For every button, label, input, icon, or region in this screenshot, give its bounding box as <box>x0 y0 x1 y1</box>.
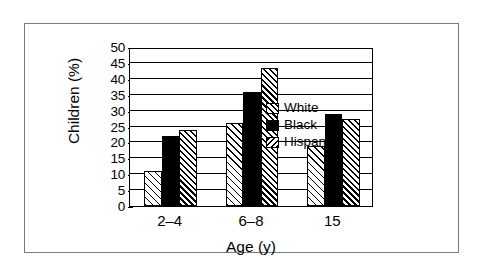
x-axis-title: Age (y) <box>129 238 373 256</box>
bar <box>226 123 244 206</box>
y-tick-mark <box>128 207 133 208</box>
y-tick-label: 45 <box>95 57 125 71</box>
y-tick-label: 35 <box>95 89 125 103</box>
figure-root: Children (%) 05101520253035404550 WhiteB… <box>0 0 484 279</box>
gridline <box>130 62 372 63</box>
y-tick-label: 0 <box>95 200 125 214</box>
y-tick-label: 5 <box>95 184 125 198</box>
y-tick-label: 20 <box>95 136 125 150</box>
bar <box>243 92 261 206</box>
y-tick-label: 40 <box>95 73 125 87</box>
legend-label: Black <box>284 118 317 132</box>
legend-swatch-icon <box>266 103 279 114</box>
y-tick-label: 10 <box>95 168 125 182</box>
y-tick-label: 50 <box>95 41 125 55</box>
gridline <box>130 78 372 79</box>
bar <box>307 146 325 206</box>
legend-item: Hispanic <box>266 134 370 150</box>
legend-item: Black <box>266 117 370 133</box>
y-axis-tick-labels: 05101520253035404550 <box>95 41 125 214</box>
legend-label: Hispanic <box>284 135 336 149</box>
x-axis-tick-labels: 2–46–815 <box>129 212 373 232</box>
bar <box>162 136 180 206</box>
legend-swatch-icon <box>266 120 279 131</box>
y-tick-label: 30 <box>95 105 125 119</box>
legend-label: White <box>284 101 319 115</box>
bar <box>144 171 162 206</box>
bar <box>179 130 197 206</box>
plot-area: WhiteBlackHispanic <box>129 48 373 207</box>
legend-item: White <box>266 100 370 116</box>
x-tick-label: 6–8 <box>210 212 291 229</box>
y-tick-label: 15 <box>95 152 125 166</box>
y-tick-label: 25 <box>95 121 125 135</box>
legend-swatch-icon <box>266 137 279 148</box>
chart-legend: WhiteBlackHispanic <box>266 99 370 151</box>
x-tick-label: 2–4 <box>129 212 210 229</box>
y-axis-title: Children (%) <box>65 21 83 181</box>
x-tick-label: 15 <box>292 212 373 229</box>
